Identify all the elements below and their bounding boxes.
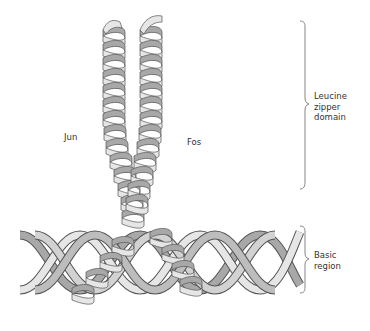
fos-label: Fos	[187, 137, 201, 148]
leucine-zipper-label-line-1: Leucine	[314, 91, 347, 102]
leucine-zipper-label-line-3: domain	[314, 112, 347, 123]
leucine-zipper-label-line-2: zipper	[314, 102, 347, 113]
basic-region-label-line-1: Basic	[314, 250, 341, 261]
diagram-canvas: Jun Fos Leucine zipper domain Basic regi…	[0, 0, 370, 331]
leucine-zipper-brace	[300, 21, 309, 189]
basic-region-label: Basic region	[314, 250, 341, 271]
diagram-svg	[0, 0, 370, 331]
leucine-zipper-domain-label: Leucine zipper domain	[314, 91, 347, 123]
basic-region-label-line-2: region	[314, 261, 341, 272]
dna-double-helix	[20, 232, 300, 290]
jun-label: Jun	[64, 132, 77, 143]
